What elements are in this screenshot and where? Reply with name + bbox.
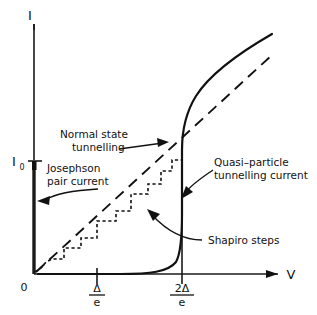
- annotation-line-2: tunnelling current: [214, 169, 308, 181]
- annotation-line-2: pair current: [47, 175, 109, 187]
- y-value-i0-base: I: [12, 154, 16, 169]
- x-tick-label-delta-over-e: Δ e: [89, 282, 105, 309]
- annotation-normal-state-tunnelling: Normal state tunnelling: [60, 128, 128, 153]
- annotation-line-1: Normal state: [60, 128, 128, 140]
- y-value-i0-subscript: 0: [19, 163, 24, 172]
- tick-numerator: 2Δ: [175, 282, 190, 295]
- leader-shapiro: [147, 209, 202, 240]
- y-tick-i0-marker: [32, 161, 37, 170]
- josephson-iv-figure: I V 0 I 0 Δ e 2Δ e Normal state tunnelli…: [0, 0, 317, 315]
- annotation-quasiparticle-tunnelling-current: Quasi–particle tunnelling current: [214, 156, 308, 181]
- y-axis-label: I: [28, 8, 32, 23]
- annotation-line-2: tunnelling: [72, 141, 125, 153]
- tick-numerator: Δ: [93, 282, 101, 295]
- leader-josephson: [37, 189, 98, 205]
- leader-quasiparticle: [181, 170, 213, 199]
- annotation-line-1: Shapiro steps: [208, 234, 279, 246]
- annotation-line-1: Josephson: [46, 162, 100, 174]
- x-tick-label-2delta-over-e: 2Δ e: [170, 282, 194, 309]
- annotation-josephson-pair-current: Josephson pair current: [46, 162, 109, 187]
- x-axis-arrowhead: [266, 270, 278, 278]
- annotation-line-1: Quasi–particle: [214, 156, 289, 168]
- tick-denominator: e: [94, 296, 101, 309]
- annotation-shapiro-steps: Shapiro steps: [208, 234, 279, 246]
- x-axis-label: V: [287, 267, 296, 282]
- origin-label: 0: [21, 281, 28, 294]
- tick-denominator: e: [179, 296, 186, 309]
